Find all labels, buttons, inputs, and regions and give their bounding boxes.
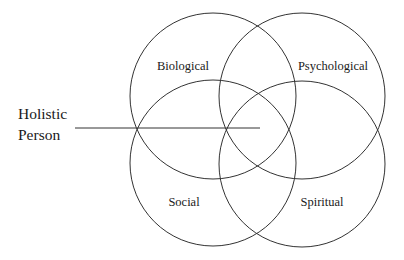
label-social: Social — [168, 195, 200, 209]
label-spiritual: Spiritual — [300, 195, 344, 209]
label-person: Person — [18, 126, 60, 143]
label-psychological: Psychological — [298, 59, 369, 73]
circle-biological — [130, 13, 296, 179]
circle-social — [130, 80, 296, 246]
circle-spiritual — [219, 81, 385, 247]
circle-psychological — [219, 13, 385, 179]
label-biological: Biological — [157, 59, 210, 73]
label-holistic: Holistic — [18, 105, 67, 122]
holistic-person-venn-diagram: Biological Psychological Social Spiritua… — [0, 0, 404, 260]
